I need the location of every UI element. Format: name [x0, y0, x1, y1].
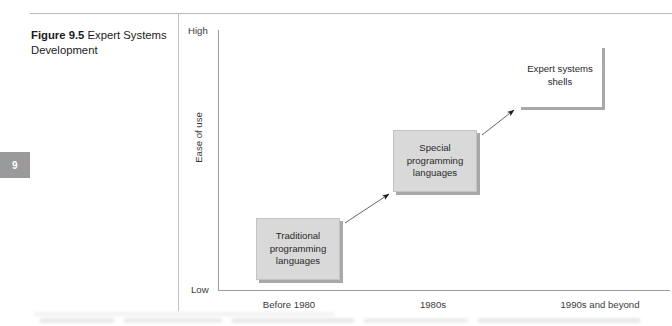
- figure-chart: High Low Ease of use Before 1980 1980s 1…: [178, 0, 672, 326]
- x-axis-tick-1980s: 1980s: [368, 299, 498, 310]
- x-axis-tick-1990s-and-beyond: 1990s and beyond: [530, 299, 670, 310]
- figure-number: Figure 9.5: [31, 29, 84, 41]
- page-number-tab: 9: [0, 152, 30, 178]
- y-axis-title: Ease of use: [193, 96, 204, 180]
- x-axis-line: [218, 290, 670, 291]
- y-axis-tick-low: Low: [191, 284, 209, 295]
- page-bleed-ghost-text-upper: [34, 312, 334, 316]
- node-traditional-programming-languages: Traditional programming languages: [256, 218, 340, 280]
- y-axis-line: [218, 30, 219, 291]
- figure-caption: Figure 9.5 Expert Systems Development: [31, 28, 171, 58]
- x-axis-tick-before-1980: Before 1980: [224, 299, 354, 310]
- node-special-programming-languages: Special programming languages: [393, 130, 477, 192]
- page-bleed-ghost-text: [40, 318, 640, 323]
- arrow-special-to-expert: [482, 110, 514, 135]
- arrow-traditional-to-special: [345, 194, 389, 223]
- node-expert-systems-shells: Expert systems shells: [518, 45, 602, 107]
- y-axis-tick-high: High: [188, 25, 208, 36]
